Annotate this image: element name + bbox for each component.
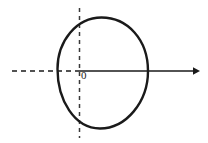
closed-oval-curve — [58, 18, 149, 129]
figure-root: 0 — [0, 0, 208, 143]
coordinate-diagram — [0, 0, 208, 143]
origin-label: 0 — [81, 70, 87, 81]
axis-arrowhead-icon — [193, 67, 200, 75]
